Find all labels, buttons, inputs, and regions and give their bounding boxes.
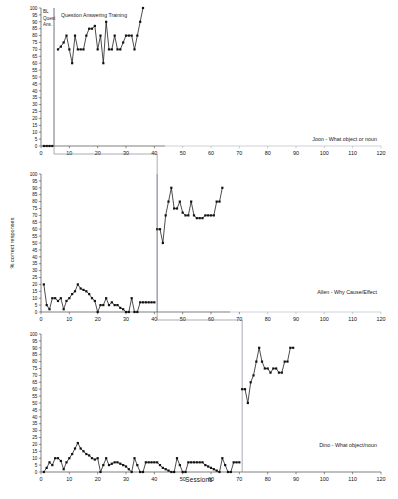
y-tick-label: 75 xyxy=(32,206,38,211)
data-point xyxy=(201,217,203,219)
data-point xyxy=(142,7,144,9)
data-point xyxy=(119,463,121,465)
data-point xyxy=(85,453,87,455)
data-point xyxy=(292,347,294,349)
data-point xyxy=(131,297,133,299)
x-tick-label: 10 xyxy=(66,150,72,156)
y-tick-labels-dino: 0510152025303540455055606570758085909510… xyxy=(30,332,38,475)
data-point xyxy=(131,35,133,37)
y-tick-label: 5 xyxy=(35,303,38,308)
data-point xyxy=(105,457,107,459)
data-point xyxy=(97,457,99,459)
y-tick-label: 70 xyxy=(32,47,38,52)
data-point xyxy=(275,367,277,369)
data-point xyxy=(108,464,110,466)
legend-label-allen: Allen - Why Cause/Effect xyxy=(317,289,377,295)
y-tick-label: 100 xyxy=(30,332,38,337)
data-point xyxy=(102,304,104,306)
x-tick-label: 70 xyxy=(236,150,242,156)
series-line-treatment xyxy=(157,188,222,243)
data-point xyxy=(80,48,82,50)
data-point xyxy=(244,388,246,390)
chart-panel-dino: 0510152025303540455055606570758085909510… xyxy=(0,322,398,499)
data-point xyxy=(221,187,223,189)
data-point xyxy=(74,35,76,37)
data-point xyxy=(167,201,169,203)
y-tick-label: 65 xyxy=(32,380,38,385)
y-tick-label: 45 xyxy=(32,82,38,87)
data-point xyxy=(71,62,73,64)
data-point xyxy=(128,468,130,470)
y-tick-label: 55 xyxy=(32,68,38,73)
data-point xyxy=(187,461,189,463)
data-point xyxy=(201,461,203,463)
data-point xyxy=(238,461,240,463)
data-point xyxy=(77,283,79,285)
y-tick-label: 80 xyxy=(32,359,38,364)
chart-panel-allen: 0510152025303540455055606570758085909510… xyxy=(0,166,398,326)
data-series-dino xyxy=(43,347,295,473)
x-tick-marks-joon xyxy=(41,146,381,148)
data-point xyxy=(250,381,252,383)
y-tick-label: 0 xyxy=(35,310,38,315)
data-point xyxy=(57,300,59,302)
y-tick-label: 30 xyxy=(32,102,38,107)
data-point xyxy=(199,461,201,463)
data-point xyxy=(261,361,263,363)
data-point xyxy=(278,372,280,374)
data-point xyxy=(167,470,169,472)
data-point xyxy=(51,464,53,466)
data-point xyxy=(48,145,50,147)
y-tick-label: 85 xyxy=(32,352,38,357)
y-tick-label: 5 xyxy=(35,137,38,142)
data-point xyxy=(207,214,209,216)
data-point xyxy=(114,304,116,306)
data-point xyxy=(196,217,198,219)
data-point xyxy=(284,361,286,363)
x-axis-title-wrapper: Sessions xyxy=(0,476,398,483)
data-point xyxy=(94,300,96,302)
cond-label-joon-line2: Quest xyxy=(43,16,56,21)
data-point xyxy=(264,367,266,369)
y-tick-label: 35 xyxy=(32,421,38,426)
data-point xyxy=(165,468,167,470)
x-tick-label: 20 xyxy=(95,150,101,156)
data-point xyxy=(77,48,79,50)
panel-dino-svg: 0510152025303540455055606570758085909510… xyxy=(0,322,398,499)
data-point xyxy=(156,461,158,463)
data-point xyxy=(142,471,144,473)
y-axis-group-allen: 0510152025303540455055606570758085909510… xyxy=(30,172,41,315)
y-tick-label: 60 xyxy=(32,61,38,66)
y-tick-label: 40 xyxy=(32,255,38,260)
y-tick-label: 45 xyxy=(32,248,38,253)
data-point xyxy=(114,461,116,463)
data-point xyxy=(68,457,70,459)
data-series-allen xyxy=(43,187,224,313)
data-point xyxy=(68,297,70,299)
data-point xyxy=(43,471,45,473)
data-series-joon xyxy=(43,7,144,147)
y-tick-label: 95 xyxy=(32,339,38,344)
data-point xyxy=(94,25,96,27)
data-point xyxy=(125,35,127,37)
multiple-baseline-figure: 0510152025303540455055606570758085909510… xyxy=(0,0,398,499)
data-point xyxy=(153,301,155,303)
data-point xyxy=(114,35,116,37)
y-tick-label: 90 xyxy=(32,346,38,351)
data-point xyxy=(122,464,124,466)
y-tick-label: 35 xyxy=(32,261,38,266)
x-tick-label: 100 xyxy=(320,150,329,156)
data-point xyxy=(267,367,269,369)
data-point xyxy=(148,461,150,463)
y-tick-label: 95 xyxy=(32,179,38,184)
y-tick-label: 90 xyxy=(32,20,38,25)
data-point xyxy=(71,293,73,295)
data-point xyxy=(125,311,127,313)
data-point xyxy=(65,35,67,37)
data-point xyxy=(176,207,178,209)
data-point xyxy=(218,201,220,203)
data-point xyxy=(204,464,206,466)
y-tick-label: 10 xyxy=(32,296,38,301)
y-tick-label: 100 xyxy=(30,6,38,11)
y-axis-title: % correct responses xyxy=(9,217,15,268)
